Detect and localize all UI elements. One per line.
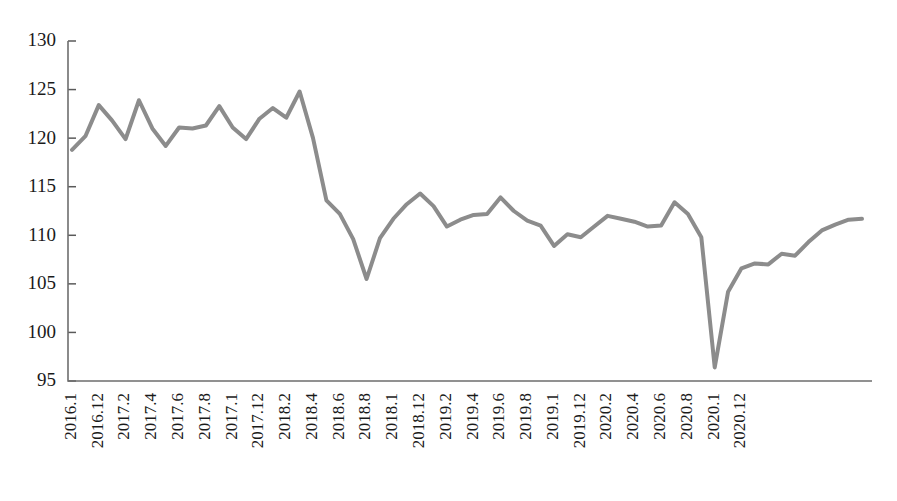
x-axis-tick-label: 2020.6 bbox=[650, 393, 669, 440]
line-chart: 95100105110115120125130 2016.12016.12201… bbox=[0, 0, 897, 501]
x-axis-tick-label: 2020.8 bbox=[677, 393, 696, 440]
x-axis-tick-label: 2016.1 bbox=[61, 393, 80, 440]
x-axis-tick-label: 2020.4 bbox=[623, 393, 642, 440]
axis-spines bbox=[68, 41, 872, 381]
x-axis-tick-label: 2017.12 bbox=[248, 393, 267, 448]
x-axis-tick-label: 2020.2 bbox=[596, 393, 615, 440]
x-axis-tick-label: 2017.2 bbox=[114, 393, 133, 440]
y-axis-tick-label: 130 bbox=[28, 29, 57, 50]
x-axis-tick-label: 2019.8 bbox=[516, 393, 535, 440]
x-axis-tick-label: 2019.4 bbox=[463, 393, 482, 440]
x-axis-tick-label: 2019.1 bbox=[543, 393, 562, 440]
chart-figure: 95100105110115120125130 2016.12016.12201… bbox=[0, 0, 897, 501]
x-axis-tick-labels: 2016.12016.122017.22017.42017.62017.8201… bbox=[61, 393, 749, 449]
y-axis-tick-label: 115 bbox=[28, 175, 56, 196]
x-axis-tick-label: 2018.2 bbox=[275, 393, 294, 440]
x-axis-tick-label: 2017.4 bbox=[141, 393, 160, 440]
series-line-index bbox=[72, 92, 862, 368]
y-axis-tick-label: 100 bbox=[28, 321, 57, 342]
x-axis-tick-label: 2017.1 bbox=[222, 393, 241, 440]
x-axis-tick-label: 2018.6 bbox=[329, 393, 348, 440]
x-axis-tick-label: 2019.6 bbox=[489, 393, 508, 440]
x-axis-tick-label: 2016.12 bbox=[88, 393, 107, 448]
x-axis-tick-label: 2017.8 bbox=[195, 393, 214, 440]
y-axis-tick-marks bbox=[68, 41, 76, 381]
x-axis-tick-label: 2020.1 bbox=[704, 393, 723, 440]
y-axis-tick-label: 95 bbox=[37, 369, 56, 390]
x-axis-tick-label: 2018.12 bbox=[409, 393, 428, 448]
x-axis-tick-label: 2017.6 bbox=[168, 393, 187, 440]
data-series-line bbox=[72, 92, 862, 368]
x-axis-tick-label: 2019.2 bbox=[436, 393, 455, 440]
x-axis-tick-label: 2018.1 bbox=[382, 393, 401, 440]
axis-lines bbox=[68, 41, 872, 381]
y-axis-tick-label: 120 bbox=[28, 127, 57, 148]
x-axis-tick-label: 2019.12 bbox=[570, 393, 589, 448]
x-axis-tick-label: 2018.4 bbox=[302, 393, 321, 440]
x-axis-tick-label: 2020.12 bbox=[730, 393, 749, 448]
x-axis-tick-label: 2018.8 bbox=[355, 393, 374, 440]
y-axis-tick-labels: 95100105110115120125130 bbox=[28, 29, 57, 390]
y-axis-tick-label: 105 bbox=[28, 272, 57, 293]
y-axis-tick-label: 110 bbox=[28, 224, 56, 245]
y-axis-tick-label: 125 bbox=[28, 78, 57, 99]
